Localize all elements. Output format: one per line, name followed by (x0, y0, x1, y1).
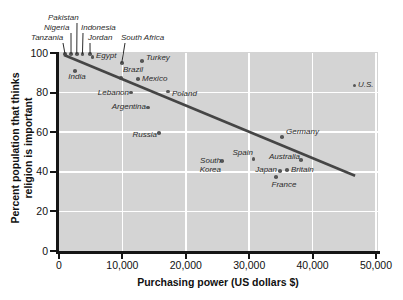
point-japan (278, 169, 282, 173)
x-tick-label: 10,000 (106, 259, 138, 271)
point-germany (280, 135, 284, 139)
label-jordan: Jordan (88, 34, 112, 43)
y-axis-title-line1: Percent population that thinks (9, 72, 21, 223)
point-russia (157, 131, 161, 135)
label-mexico: Mexico (142, 75, 167, 84)
y-tick-label: 60 (36, 126, 48, 138)
point-france (274, 175, 278, 179)
gridline-horizontal (59, 131, 378, 133)
label-britain: Britain (291, 166, 314, 175)
point-nigeria (69, 52, 73, 56)
point-mexico (136, 77, 140, 81)
y-tick-mark (50, 52, 56, 54)
label-japan: Japan (255, 166, 277, 175)
label-tanzania: Tanzania (31, 34, 63, 43)
leader-line-indonesia (82, 33, 83, 54)
y-tick-label: 40 (36, 165, 48, 177)
scatter-plot-figure: 010,00020,00030,00040,00050,000020406080… (0, 0, 403, 300)
x-tick-label: 40,000 (297, 259, 329, 271)
gridline-horizontal (59, 211, 378, 213)
y-tick-label: 0 (42, 245, 48, 257)
point-brazil (119, 76, 123, 80)
point-pakistan (75, 52, 79, 56)
y-tick-label: 100 (30, 47, 48, 59)
point-argentina (146, 106, 150, 110)
x-axis-line (56, 251, 380, 254)
x-tick-label: 50,000 (360, 259, 392, 271)
y-tick-label: 80 (36, 86, 48, 98)
label-south-africa: South Africa (121, 34, 164, 43)
label-turkey: Turkey (146, 54, 170, 63)
y-tick-mark (50, 171, 56, 173)
label-spain: Spain (233, 149, 253, 158)
y-axis-title-line2: religion is important (21, 98, 33, 199)
label-russia: Russia (133, 131, 157, 140)
label-nigeria: Nigeria (44, 24, 69, 33)
gridline-vertical (185, 53, 187, 251)
gridline-vertical (312, 53, 314, 251)
label-france: France (272, 181, 297, 190)
label-brazil: Brazil (123, 66, 143, 75)
label-pakistan: Pakistan (48, 14, 79, 23)
label-argentina: Argentina (112, 103, 146, 112)
x-axis-title: Purchasing power (US dollars $) (137, 276, 299, 288)
label-australia: Australia (269, 153, 300, 162)
gridline-vertical (122, 53, 124, 251)
point-britain (285, 168, 289, 172)
x-tick-label: 30,000 (233, 259, 265, 271)
x-tick-label: 0 (56, 259, 62, 271)
plot-area (59, 52, 378, 251)
label-indonesia: Indonesia (81, 24, 116, 33)
label-south-korea: South Korea (200, 157, 221, 174)
label-india: India (68, 73, 85, 82)
label-poland: Poland (172, 90, 197, 99)
label-germany: Germany (286, 128, 319, 137)
y-tick-mark (50, 210, 56, 212)
point-turkey (140, 59, 144, 63)
y-tick-label: 20 (36, 205, 48, 217)
label-egypt: Egypt (96, 52, 116, 61)
x-tick-label: 20,000 (170, 259, 202, 271)
y-axis-line (56, 52, 59, 254)
point-tanzania (63, 52, 67, 56)
point-indonesia (81, 52, 85, 56)
label-lebanon: Lebanon (98, 89, 129, 98)
y-tick-mark (50, 131, 56, 133)
y-tick-mark (50, 250, 56, 252)
y-axis-title: Percent population that thinks religion … (9, 72, 34, 223)
gridline-vertical (375, 53, 377, 251)
label-u-s: U.S. (358, 81, 374, 90)
y-tick-mark (50, 92, 56, 94)
